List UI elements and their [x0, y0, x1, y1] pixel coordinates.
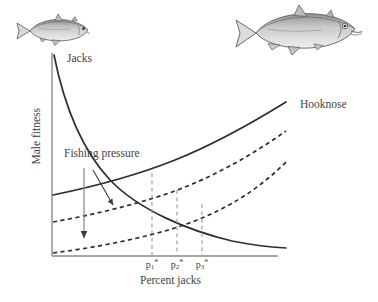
- curve-hooknose-dashed-low: [53, 162, 286, 253]
- figure-container: Jacks Hooknose Fishing pressure Percent …: [0, 0, 378, 302]
- curve-label-hooknose: Hooknose: [300, 98, 347, 110]
- x-tick-label-p1: p1*: [146, 258, 159, 271]
- x-tick-label-p3: p3*: [196, 258, 209, 271]
- curve-hooknose-dashed-mid: [53, 131, 286, 222]
- fishing-pressure-arrow-diagonal: [93, 170, 113, 205]
- annotation-fishing-pressure: Fishing pressure: [64, 147, 122, 159]
- plot-canvas: [0, 0, 378, 302]
- x-tick-label-p2: p2*: [171, 258, 184, 271]
- x-axis-label: Percent jacks: [140, 274, 201, 286]
- tick-superscript: *: [154, 258, 158, 267]
- hooknose-salmon-illustration: [236, 5, 362, 55]
- tick-superscript: *: [204, 258, 208, 267]
- curve-label-jacks: Jacks: [67, 52, 92, 64]
- tick-superscript: *: [179, 258, 183, 267]
- y-axis-label: Male fitness: [30, 96, 42, 176]
- jack-salmon-illustration: [17, 14, 90, 46]
